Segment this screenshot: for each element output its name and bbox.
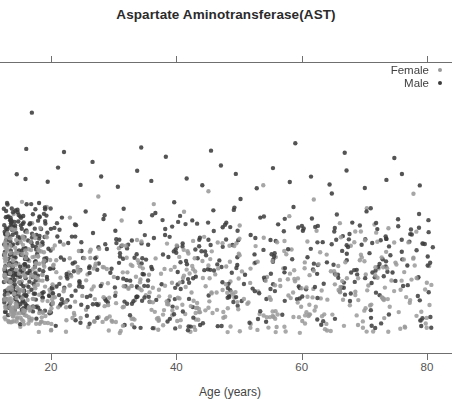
plot-area xyxy=(0,63,452,353)
x-tick-top-60 xyxy=(302,56,303,62)
x-tick-label-20: 20 xyxy=(31,361,71,373)
x-tick-label-40: 40 xyxy=(156,361,196,373)
legend-item-female: Female xyxy=(391,64,442,76)
x-tick-top-80 xyxy=(427,56,428,62)
chart-legend: Female Male xyxy=(391,64,442,90)
x-tick-80 xyxy=(427,354,428,360)
chart-title: Aspartate Aminotransferase(AST) xyxy=(0,7,452,22)
x-axis-title: Age (years) xyxy=(0,385,452,399)
x-tick-20 xyxy=(51,354,52,360)
x-tick-top-40 xyxy=(176,56,177,62)
x-tick-60 xyxy=(302,354,303,360)
x-tick-top-20 xyxy=(51,56,52,62)
legend-label-male: Male xyxy=(404,77,429,89)
legend-swatch-male-icon xyxy=(438,81,442,85)
x-tick-label-60: 60 xyxy=(282,361,322,373)
legend-label-female: Female xyxy=(391,64,429,76)
scatter-chart: Aspartate Aminotransferase(AST) 20406080… xyxy=(0,0,452,406)
legend-swatch-female-icon xyxy=(438,68,442,72)
scatter-points-canvas xyxy=(0,63,452,353)
legend-item-male: Male xyxy=(391,77,442,89)
x-tick-40 xyxy=(176,354,177,360)
bottom-axis-line xyxy=(0,353,452,354)
x-tick-label-80: 80 xyxy=(407,361,447,373)
x-axis-title-text: Age (years) xyxy=(199,385,261,399)
